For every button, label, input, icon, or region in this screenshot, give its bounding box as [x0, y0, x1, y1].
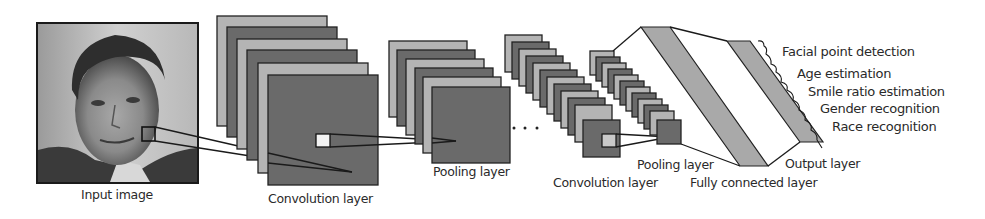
input-image [37, 23, 198, 183]
conv-layer-1-label: Convolution layer [268, 191, 374, 206]
cnn-diagram: Input image Convolution layer Pooling la… [0, 0, 985, 219]
output-race-recognition: Race recognition [832, 119, 936, 134]
pooling-layer-1-label: Pooling layer [433, 164, 511, 179]
output-layer-label: Output layer [785, 156, 861, 171]
output-smile-ratio-estimation: Smile ratio estimation [808, 84, 945, 99]
pooling-layer-1-stack [389, 41, 510, 163]
conv-layer-1-stack [217, 16, 378, 185]
conv-layer-2-label: Convolution layer [553, 175, 659, 190]
conv1-window [316, 134, 330, 147]
output-age-estimation: Age estimation [797, 66, 891, 81]
fully-connected-layer-label: Fully connected layer [690, 175, 818, 190]
pooling-layer-2-label: Pooling layer [637, 157, 715, 172]
input-image-label: Input image [81, 187, 154, 202]
conv2-window [602, 134, 616, 147]
output-gender-recognition: Gender recognition [820, 101, 940, 116]
output-facial-point-detection: Facial point detection [782, 44, 915, 59]
ellipsis-dots [513, 127, 539, 130]
